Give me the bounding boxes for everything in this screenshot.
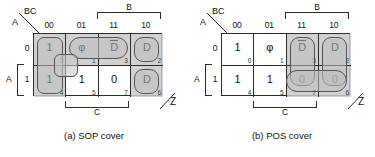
bracket-a-label: A (194, 74, 200, 84)
group-cell0-bottom (54, 54, 78, 77)
cell-value: 1 (254, 73, 285, 85)
column-header-01: 01 (65, 20, 97, 30)
kmap-cell: 1 5 (254, 66, 286, 98)
bracket-a (17, 64, 24, 96)
row-header-0: 0 (210, 43, 220, 53)
map-caption: (b) POS cover (188, 130, 375, 141)
cell-index: 1 (280, 57, 284, 65)
output-slash-icon (346, 90, 368, 112)
kmap-figure: BC A B 00 01 11 10 0 1 A 1 0 φ 1 (0, 0, 375, 157)
map-caption: (a) SOP cover (0, 130, 188, 141)
kmap-cell: 0 7 (99, 66, 131, 98)
kmap-cell: 1 0 (222, 34, 254, 66)
cell-index: 2 (157, 57, 161, 65)
column-header-00: 00 (33, 20, 65, 30)
kmap-cell: 1 4 (222, 66, 254, 98)
group-row0-c01-c11 (69, 37, 128, 59)
bracket-b-label: B (97, 2, 161, 12)
cell-index: 4 (248, 89, 252, 97)
output-label: Z (170, 96, 176, 107)
column-header-11: 11 (286, 20, 318, 30)
kmap-grid-pos: 1 0 φ 1 D 3 D 2 1 4 1 5 (221, 33, 350, 96)
cell-index: 5 (92, 89, 96, 97)
bracket-b-label: B (285, 2, 349, 12)
cell-index: 3 (124, 57, 128, 65)
bracket-a (205, 64, 212, 96)
group-cell6 (134, 69, 159, 94)
cell-value: 1 (222, 41, 253, 53)
kmap-pos: BC A B 00 01 11 10 0 1 A 1 0 φ 1 (188, 0, 375, 157)
cell-index: 7 (124, 89, 128, 97)
cell-index: 5 (280, 89, 284, 97)
column-header-10: 10 (318, 20, 350, 30)
output-label: Z (358, 96, 364, 107)
column-header-11: 11 (98, 20, 130, 30)
cell-value: 1 (222, 73, 253, 85)
column-header-10: 10 (130, 20, 162, 30)
cell-index: 0 (248, 57, 252, 65)
bracket-b (285, 12, 349, 19)
kmap-cell: φ 1 (254, 34, 286, 66)
group-cell2 (134, 37, 159, 62)
bracket-a-label: A (6, 74, 12, 84)
column-header-01: 01 (253, 20, 285, 30)
column-header-00: 00 (221, 20, 253, 30)
kmap-sop: BC A B 00 01 11 10 0 1 A 1 0 φ 1 (0, 0, 188, 157)
output-slash-icon (158, 90, 180, 112)
row-header-0: 0 (22, 43, 32, 53)
cell-value: 0 (99, 73, 130, 85)
group-row1-c11-c10 (286, 70, 347, 92)
bracket-c-label: C (253, 107, 317, 117)
cell-value: φ (254, 41, 285, 53)
kmap-grid-sop: 1 0 φ 1 D 3 D 2 1 4 1 5 (33, 33, 162, 96)
bracket-b (97, 12, 161, 19)
bracket-c-label: C (65, 107, 129, 117)
